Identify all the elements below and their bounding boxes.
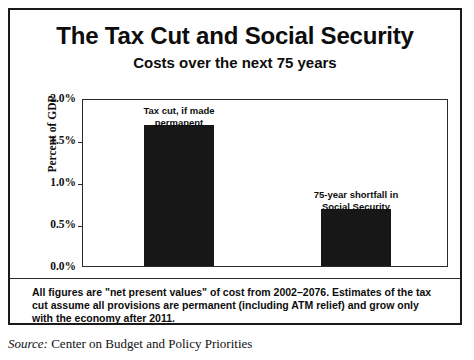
- footnote-text: All figures are "net present values" of …: [32, 286, 442, 326]
- source-text: Center on Budget and Policy Priorities: [48, 336, 252, 351]
- bar-label-social-security-shortfall: 75-year shortfall in Social Security: [291, 189, 421, 213]
- footnote-divider: [10, 278, 460, 279]
- y-tick-mark-0-5: [78, 226, 83, 227]
- chart-subtitle: Costs over the next 75 years: [10, 54, 460, 71]
- bar-label-tax-cut: Tax cut, if made permanent: [119, 105, 239, 129]
- plot-area: Tax cut, if made permanent 75-year short…: [82, 99, 448, 267]
- source-label: Source:: [8, 336, 48, 351]
- y-tick-label-2-0: 2.0%: [50, 92, 76, 104]
- y-tick-label-1-0: 1.0%: [50, 176, 76, 188]
- bar-social-security-shortfall: [321, 209, 391, 266]
- source-caption: Source: Center on Budget and Policy Prio…: [8, 336, 252, 352]
- y-tick-label-0-5: 0.5%: [50, 218, 76, 230]
- y-axis-tick-labels: 2.0% 1.5% 1.0% 0.5% 0.0%: [32, 99, 76, 267]
- y-tick-mark-1-0: [78, 184, 83, 185]
- y-tick-label-1-5: 1.5%: [50, 134, 76, 146]
- y-tick-mark-1-5: [78, 142, 83, 143]
- y-tick-label-0-0: 0.0%: [50, 260, 76, 272]
- figure-container: The Tax Cut and Social Security Costs ov…: [8, 8, 462, 325]
- bar-tax-cut: [144, 125, 214, 266]
- chart-title: The Tax Cut and Social Security: [10, 22, 460, 50]
